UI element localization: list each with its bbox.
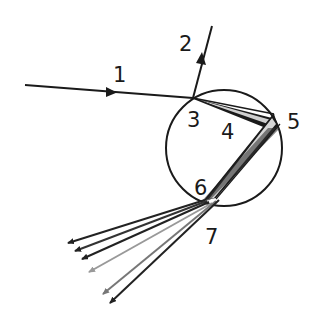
exit-ray-3: [82, 202, 209, 259]
label-5: 5: [287, 110, 300, 134]
exit-rays-fan: [68, 200, 219, 303]
label-7: 7: [205, 225, 218, 249]
exit-ray-1: [68, 200, 205, 243]
exit-ray-4: [89, 203, 212, 272]
label-3: 3: [187, 108, 200, 132]
label-4: 4: [221, 120, 234, 144]
droplet-refraction-diagram: 1 2 3 4 5 6 7: [0, 0, 316, 321]
label-2: 2: [179, 32, 192, 56]
label-1: 1: [113, 63, 126, 87]
internal-reflected-fan: [201, 114, 280, 202]
label-6: 6: [194, 176, 207, 200]
incident-ray-arrow-icon: [106, 87, 117, 97]
